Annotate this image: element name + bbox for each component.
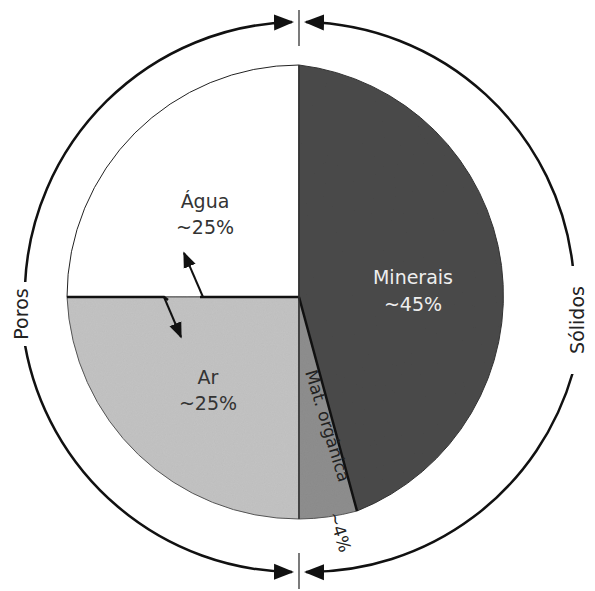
- agua-label: Água: [181, 190, 230, 212]
- minerais-label: Minerais: [373, 266, 453, 288]
- solidos-label: Sólidos: [566, 286, 588, 354]
- materia-organica-pct: ~4%: [324, 509, 355, 554]
- pie-slice-agua: [67, 65, 299, 297]
- minerais-pct: ~45%: [384, 293, 442, 315]
- soil-composition-diagram: Água ~25% Ar ~25% Minerais ~45% Mat. org…: [0, 0, 595, 591]
- ar-pct: ~25%: [179, 392, 237, 414]
- agua-pct: ~25%: [176, 216, 234, 238]
- poros-label: Poros: [10, 288, 32, 339]
- ar-label: Ar: [198, 366, 219, 388]
